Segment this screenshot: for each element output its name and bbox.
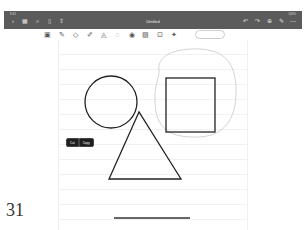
tool-bar: ▣ ✎ ◇ ✐ ◬ ◌ ◉ ▨ ⊡ ✦ bbox=[44, 29, 177, 39]
pen-mode-icon[interactable]: ✎ bbox=[278, 18, 284, 24]
context-menu-item[interactable]: Cut bbox=[66, 138, 79, 147]
undo-icon[interactable]: ↶ bbox=[242, 18, 248, 24]
laser-pointer-icon[interactable]: ✦ bbox=[170, 31, 177, 38]
sticker-icon[interactable]: ◉ bbox=[128, 31, 135, 38]
highlighter-icon[interactable]: ✐ bbox=[86, 31, 93, 38]
share-icon[interactable]: ⇪ bbox=[58, 18, 64, 24]
context-menu: Cut Copy bbox=[66, 138, 94, 147]
search-icon[interactable]: ⌕ bbox=[34, 18, 40, 24]
bookmark-icon[interactable]: ▯ bbox=[46, 18, 52, 24]
context-menu-item[interactable]: Copy bbox=[79, 138, 94, 147]
top-app-bar: 9:41 100% ‹ ▦ ⌕ ▯ ⇪ Untitled ↶ ↷ ⊕ ✎ ⋯ bbox=[4, 11, 302, 29]
back-icon[interactable]: ‹ bbox=[10, 18, 16, 24]
image-icon[interactable]: ▨ bbox=[142, 31, 149, 38]
triangle-shape bbox=[109, 112, 181, 179]
grid-icon[interactable]: ▦ bbox=[22, 18, 28, 24]
color-swatch-pill[interactable] bbox=[195, 30, 225, 39]
shapes-icon[interactable]: ◬ bbox=[100, 31, 107, 38]
text-box-icon[interactable]: ⊡ bbox=[156, 31, 163, 38]
add-page-icon[interactable]: ⊕ bbox=[266, 18, 272, 24]
status-time: 9:41 bbox=[10, 12, 16, 16]
status-indicators: 100% bbox=[288, 12, 296, 16]
lasso-icon[interactable]: ◌ bbox=[114, 31, 121, 38]
eraser-icon[interactable]: ◇ bbox=[72, 31, 79, 38]
left-icon-group: ‹ ▦ ⌕ ▯ ⇪ bbox=[10, 18, 64, 24]
redo-icon[interactable]: ↷ bbox=[254, 18, 260, 24]
read-mode-icon[interactable]: ▣ bbox=[44, 31, 51, 38]
lasso-selection bbox=[155, 49, 236, 137]
right-icon-group: ↶ ↷ ⊕ ✎ ⋯ bbox=[242, 18, 296, 24]
drawing-canvas[interactable] bbox=[59, 40, 247, 230]
page-number: 31 bbox=[6, 200, 24, 221]
document-title[interactable]: Untitled bbox=[146, 19, 160, 24]
square-shape bbox=[166, 78, 215, 132]
note-page[interactable] bbox=[58, 40, 248, 230]
circle-shape bbox=[85, 76, 137, 128]
more-icon[interactable]: ⋯ bbox=[290, 18, 296, 24]
pen-icon[interactable]: ✎ bbox=[58, 31, 65, 38]
